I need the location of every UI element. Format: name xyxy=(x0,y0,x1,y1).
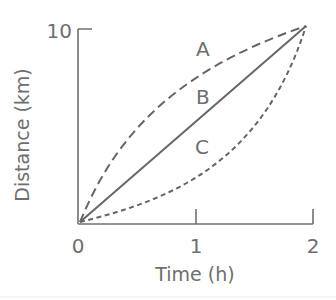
series-b-label: B xyxy=(196,85,210,109)
distance-time-chart: A B C 10 0 1 2 Time (h) Distance (km) xyxy=(0,0,336,300)
y-tick-label-10: 10 xyxy=(47,19,72,43)
y-axis xyxy=(78,29,92,224)
series-curves xyxy=(80,26,306,222)
series-a-label: A xyxy=(196,37,210,61)
x-tick-label-2: 2 xyxy=(307,234,320,258)
x-axis-title: Time (h) xyxy=(154,263,234,285)
series-c-label: C xyxy=(195,135,209,159)
x-tick-label-1: 1 xyxy=(190,234,203,258)
series-b-line xyxy=(80,26,306,222)
x-tick-label-0: 0 xyxy=(72,234,85,258)
y-axis-title: Distance (km) xyxy=(11,68,33,201)
